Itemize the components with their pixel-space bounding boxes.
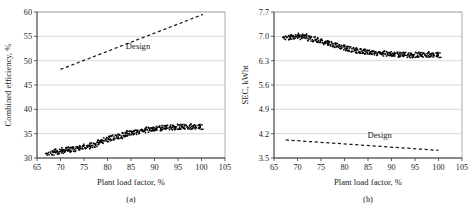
data-point [343, 49, 345, 51]
data-point [192, 126, 194, 128]
data-point [64, 151, 66, 153]
data-point [92, 147, 94, 149]
data-point [333, 46, 335, 48]
data-point [190, 127, 192, 128]
data-point [354, 49, 356, 51]
x-tick-label: 85 [127, 163, 135, 172]
data-point [310, 38, 312, 40]
data-point [437, 55, 439, 57]
data-point [415, 52, 417, 54]
data-point [180, 128, 182, 130]
data-point [346, 46, 348, 48]
x-tick-label: 75 [80, 163, 88, 172]
data-point [82, 146, 84, 148]
data-point [426, 56, 428, 58]
data-point [332, 44, 334, 46]
data-point [394, 55, 396, 57]
data-point [439, 52, 441, 54]
data-point [74, 149, 76, 151]
chart-panel-b: 3.54.24.95.66.37.07.76570758085909510010… [237, 0, 474, 210]
data-point [92, 145, 94, 147]
data-point [407, 57, 409, 59]
data-point [418, 51, 420, 53]
x-tick-label: 105 [456, 163, 468, 172]
data-point [365, 53, 367, 55]
x-tick-label: 65 [270, 163, 278, 172]
data-point [169, 129, 171, 131]
data-point [320, 42, 322, 44]
data-point [360, 48, 362, 50]
data-point [423, 53, 425, 55]
data-point [323, 44, 325, 46]
data-point [172, 129, 174, 131]
y-tick-label: 60 [24, 8, 32, 17]
data-point [133, 133, 135, 135]
y-tick-label: 30 [24, 154, 32, 163]
data-point [97, 139, 99, 141]
data-point [63, 152, 65, 154]
data-point [138, 133, 140, 135]
data-point [295, 34, 297, 36]
data-point [361, 50, 363, 52]
data-point [414, 57, 416, 59]
data-point [356, 53, 358, 55]
data-point [300, 39, 302, 41]
grid-lines-a [37, 12, 225, 158]
data-point [305, 38, 307, 40]
data-point [57, 153, 59, 155]
data-point [387, 52, 389, 54]
x-axis-title-a: Plant load factor, % [97, 177, 165, 187]
data-point [195, 127, 197, 128]
data-point [296, 36, 298, 38]
data-point [412, 54, 414, 56]
data-point [301, 38, 303, 40]
data-point [118, 134, 120, 136]
data-point [343, 44, 345, 46]
data-point [51, 154, 53, 156]
x-tick-label: 100 [432, 163, 444, 172]
data-point [345, 50, 347, 52]
data-point [46, 154, 48, 156]
data-point [369, 51, 371, 53]
data-point [126, 135, 128, 137]
data-point [341, 45, 343, 47]
data-point [397, 52, 399, 54]
data-point [163, 128, 165, 129]
data-point [107, 141, 109, 143]
data-point [359, 52, 361, 54]
y-tick-label: 4.2 [259, 130, 269, 139]
data-point [382, 53, 384, 55]
data-point [90, 142, 92, 144]
data-point [365, 51, 367, 53]
data-point [167, 127, 169, 129]
data-point [142, 129, 144, 131]
data-point [307, 37, 309, 39]
data-point [440, 57, 442, 59]
data-point [113, 136, 115, 138]
x-tick-label: 80 [103, 163, 111, 172]
data-point [316, 39, 318, 41]
data-point [171, 127, 173, 128]
data-point [129, 133, 131, 135]
data-point [71, 147, 73, 149]
data-point [293, 38, 295, 40]
data-point [50, 153, 52, 155]
data-point [162, 128, 164, 130]
data-point [124, 132, 126, 134]
data-point [180, 124, 182, 126]
y-axis-title-a: Combined efficiency, % [3, 43, 13, 126]
data-point [330, 44, 332, 46]
data-point [367, 53, 369, 55]
data-point [103, 140, 105, 142]
data-point [416, 52, 418, 54]
data-point [188, 128, 190, 130]
y-tick-label: 4.9 [259, 105, 269, 114]
x-tick-label: 100 [195, 163, 207, 172]
data-point [433, 56, 435, 58]
data-point [53, 150, 55, 152]
data-point [345, 48, 347, 50]
data-point [99, 140, 101, 142]
data-point [433, 55, 435, 57]
data-point [68, 150, 70, 152]
data-point [311, 36, 313, 38]
